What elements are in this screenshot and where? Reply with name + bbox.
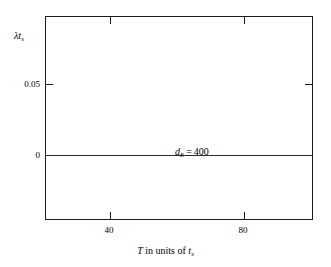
x-tick-bottom-80 — [244, 212, 245, 219]
y-tick-label-0.05: 0.05 — [24, 80, 40, 89]
y-axis-title: λts — [14, 30, 24, 44]
plot-frame: dE=400 — [45, 16, 313, 220]
x-axis-title-middle: in units of — [143, 245, 189, 256]
y-tick-right-0.05 — [305, 84, 312, 85]
annotation-operator: = — [184, 146, 194, 157]
x-tick-label-80: 80 — [239, 226, 248, 235]
x-tick-bottom-40 — [110, 212, 111, 219]
figure-canvas: λts 0.05 0 dE=400 40 80 T in units of ts — [0, 0, 331, 267]
x-axis-title: T in units of ts — [0, 245, 331, 259]
x-axis-title-unit-subscript: s — [191, 250, 194, 257]
plot-annotation-de: dE=400 — [175, 146, 209, 160]
y-tick-label-0: 0 — [36, 151, 41, 160]
x-tick-top-40 — [110, 17, 111, 24]
x-tick-label-40: 40 — [105, 226, 114, 235]
x-tick-top-80 — [244, 17, 245, 24]
plot-area: dE=400 — [46, 17, 312, 219]
y-axis-title-subscript: s — [21, 35, 24, 42]
annotation-value: 400 — [194, 146, 209, 157]
y-tick-left-0.05 — [46, 84, 53, 85]
